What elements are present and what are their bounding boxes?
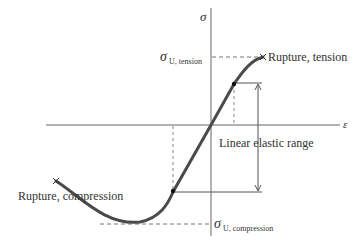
sigma-u-tension-symbol: σ [160,49,168,64]
proportional-limit-tension-point [232,82,236,86]
proportional-limit-compression-point [171,189,175,193]
rupture-tension-label: Rupture, tension [268,50,347,64]
stress-axis-label: σ [200,9,207,24]
sigma-u-compression-subscript: U, compression [223,224,273,233]
sigma-u-tension-subscript: U, tension [169,57,202,66]
sigma-u-compression-symbol: σ [214,216,222,231]
strain-axis-label: ε [343,118,348,130]
linear-elastic-range-label: Linear elastic range [219,136,314,150]
stress-strain-diagram: σ ε Rupture, tension Rupture, compressio… [0,0,356,243]
rupture-compression-label: Rupture, compression [18,189,123,203]
